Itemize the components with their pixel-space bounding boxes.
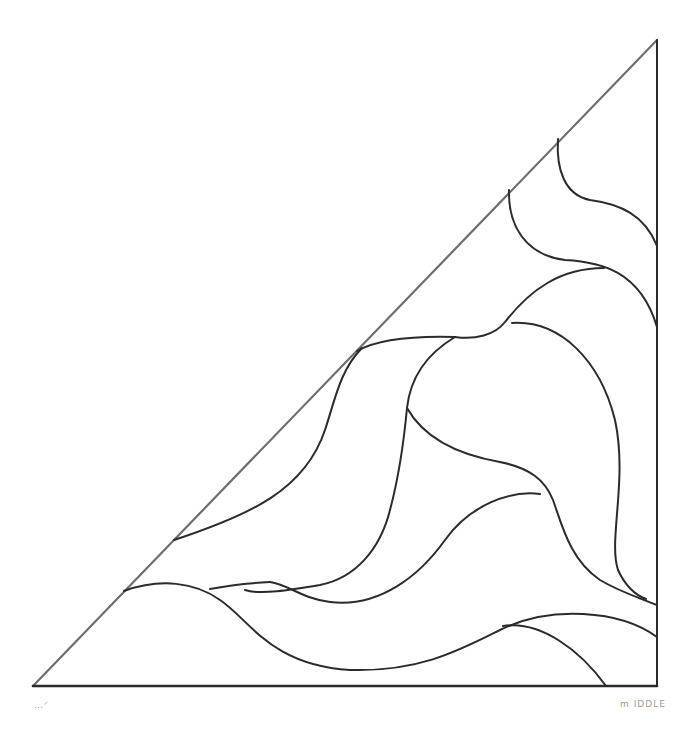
curve-base-connector	[210, 582, 270, 589]
curve-top-right	[558, 139, 657, 246]
curve-inner-sweep	[407, 408, 657, 605]
curve-middle-wave	[245, 337, 455, 592]
curve-arch-right	[455, 268, 604, 338]
corner-label-left: …ᐟ	[34, 700, 49, 710]
pattern-canvas	[0, 0, 697, 736]
corner-label-right: m IDDLE	[620, 699, 666, 709]
curve-bottom-arch	[503, 625, 606, 686]
curve-teardrop	[512, 323, 646, 599]
curve-upper-flow	[357, 337, 455, 351]
curve-bottom-wave	[124, 583, 657, 670]
curve-second-from-top	[509, 190, 657, 327]
